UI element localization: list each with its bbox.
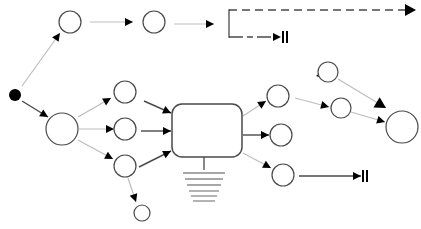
edge-e-farmid-hub (351, 112, 385, 124)
arrowhead-icon (376, 116, 385, 124)
state-node-n-far-top (318, 62, 338, 82)
edge-e-midb-box (141, 127, 171, 135)
edge-e-top1-top2 (90, 18, 133, 26)
edge-e-rightc-end (299, 170, 367, 182)
state-node-n-right-c (272, 164, 294, 186)
edge-e-top2-bracket (174, 20, 214, 28)
arrowhead-icon (52, 33, 60, 42)
arrowhead-icon (257, 101, 266, 109)
edge-e-mida-box (144, 101, 171, 113)
arrowhead-icon (320, 101, 329, 109)
arrowhead-icon (130, 193, 138, 202)
diagram-canvas (0, 0, 421, 229)
state-node-n-hub-right (386, 111, 418, 143)
central-process-box (172, 104, 242, 157)
initial-node-icon (9, 89, 21, 101)
flow-final-icon (363, 170, 367, 182)
state-node-n-mid-a (114, 81, 136, 103)
flow-final-icon (283, 31, 287, 43)
state-node-n-right-b (270, 124, 292, 146)
edge-e-box-rightc (243, 153, 271, 168)
edge-e-hub-midb (79, 125, 114, 133)
arrowhead-large-icon (405, 4, 416, 16)
state-node-n-right-a (267, 85, 289, 107)
state-node-n-small-bottom (134, 205, 150, 221)
edge-e-box-rightb (243, 131, 269, 139)
edge-e-start-hub (22, 101, 48, 117)
process-box-layer (172, 104, 242, 157)
arrowhead-icon (206, 20, 214, 28)
arrowhead-icon (261, 131, 269, 139)
arrowhead-icon (39, 109, 48, 117)
edge-e-righta-farmid (295, 98, 329, 109)
state-node-n-mid-c (114, 155, 136, 177)
state-node-n-far-mid (331, 98, 351, 118)
edge-e-midc-box (139, 151, 171, 167)
state-node-n-top-1 (59, 11, 81, 33)
state-node-n-hub-left (46, 113, 78, 145)
edge-e-start-top1 (22, 33, 60, 86)
edge-e-midc-small (128, 178, 137, 202)
arrowhead-icon (353, 172, 361, 180)
state-node-n-mid-b (114, 118, 136, 140)
edge-e-hub-mida (78, 98, 111, 117)
flow-diagram (0, 0, 421, 229)
arrowhead-icon (106, 125, 114, 133)
arrowhead-icon (125, 18, 133, 26)
arrowhead-icon (273, 33, 281, 41)
edge-e-hub-midc (78, 140, 113, 159)
arrowhead-icon (163, 127, 171, 135)
state-node-n-top-2 (143, 11, 165, 33)
connector-line (22, 33, 60, 86)
fork-bracket (229, 4, 416, 43)
arrowhead-icon (373, 97, 386, 108)
ground-symbol (183, 157, 225, 201)
edge-e-box-righta (243, 101, 266, 116)
bracket-frame (229, 10, 412, 37)
